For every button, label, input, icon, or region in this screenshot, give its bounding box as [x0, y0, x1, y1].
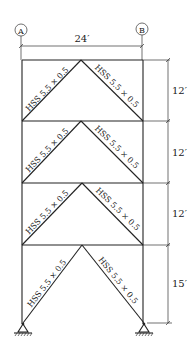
- svg-text:HSS 5.5 × 0.5: HSS 5.5 × 0.5: [94, 186, 142, 232]
- svg-text:HSS 5.5 × 0.5: HSS 5.5 × 0.5: [26, 258, 69, 309]
- svg-text:HSS 5.5 × 0.5: HSS 5.5 × 0.5: [96, 255, 139, 305]
- span-dimension: 24′: [19, 33, 144, 48]
- svg-text:12′: 12′: [172, 208, 188, 219]
- svg-text:15′: 15′: [172, 278, 188, 289]
- height-dimensions: 12′ 12′ 12′ 15′: [143, 58, 188, 325]
- svg-text:24′: 24′: [75, 33, 91, 44]
- pin-support-a: [14, 323, 32, 336]
- story-3-braces: HSS 5.5 × 0.5 HSS 5.5 × 0.5: [22, 183, 143, 245]
- svg-text:HSS 5.5 × 0.5: HSS 5.5 × 0.5: [93, 124, 141, 170]
- svg-text:HSS 5.5 × 0.5: HSS 5.5 × 0.5: [24, 126, 70, 174]
- gridline-b: B: [136, 23, 148, 60]
- svg-text:A: A: [17, 27, 24, 36]
- gridline-a: A: [15, 24, 27, 60]
- svg-text:HSS 5.5 × 0.5: HSS 5.5 × 0.5: [24, 188, 70, 236]
- pin-support-b: [135, 323, 153, 336]
- story-4-braces: HSS 5.5 × 0.5 HSS 5.5 × 0.5: [23, 245, 144, 323]
- svg-text:12′: 12′: [172, 85, 188, 96]
- svg-text:12′: 12′: [172, 147, 188, 158]
- story-2-braces: HSS 5.5 × 0.5 HSS 5.5 × 0.5: [22, 121, 143, 183]
- svg-text:B: B: [139, 26, 145, 35]
- svg-text:HSS 5.5 × 0.5: HSS 5.5 × 0.5: [93, 63, 141, 109]
- svg-text:HSS 5.5 × 0.5: HSS 5.5 × 0.5: [24, 65, 70, 113]
- braced-frame-diagram: A B 24′ HSS 5.5 × 0.5 HSS 5.5 × 0.5 HSS …: [0, 0, 196, 355]
- story-1-braces: HSS 5.5 × 0.5 HSS 5.5 × 0.5: [22, 60, 143, 121]
